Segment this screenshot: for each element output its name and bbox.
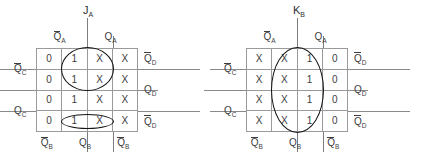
kmap-cell[interactable]: 0 — [37, 91, 62, 112]
kmap-cell[interactable]: X — [247, 49, 272, 70]
kmap-title: KB — [293, 4, 305, 18]
right-label-0: QD — [144, 54, 156, 67]
kmap-cell[interactable]: 0 — [37, 70, 62, 91]
kmap-cell[interactable]: 0 — [37, 49, 62, 70]
kmap-cell[interactable]: 0 — [323, 91, 348, 112]
left-label-0: QC — [224, 64, 236, 77]
bottom-label-1: QB — [79, 138, 91, 151]
kmap-cell[interactable]: 0 — [37, 111, 62, 132]
kmap-cell[interactable]: 0 — [323, 111, 348, 132]
bottom-label-1: QB — [289, 138, 301, 151]
right-label-1: QD — [144, 85, 156, 98]
kmap-left: JA01XX01XX01XX01XXQAQAQBQBQBQCQCQDQDQD — [0, 0, 211, 168]
kmap-cell[interactable]: X — [88, 70, 113, 91]
kmap-title: JA — [83, 4, 93, 18]
col-label-1: QA — [315, 32, 327, 45]
kmap-cell[interactable]: 1 — [62, 111, 87, 132]
kmap-cell[interactable]: 1 — [62, 91, 87, 112]
kmap-cell[interactable]: 1 — [298, 70, 323, 91]
kmap-cell[interactable]: X — [272, 111, 297, 132]
left-label-1: QC — [14, 106, 26, 119]
kmap-cell[interactable]: X — [113, 49, 138, 70]
kmap-cell[interactable]: X — [88, 49, 113, 70]
kmap-cell[interactable]: X — [247, 111, 272, 132]
kmap-cell[interactable]: X — [247, 70, 272, 91]
right-label-0: QD — [354, 54, 366, 67]
col-label-0: QA — [264, 32, 276, 45]
bottom-label-2: QB — [117, 138, 129, 151]
kmap-cell[interactable]: X — [247, 91, 272, 112]
bottom-label-0: QB — [41, 138, 53, 151]
kmap-cell[interactable]: 1 — [62, 70, 87, 91]
left-label-1: QC — [224, 106, 236, 119]
kmap-cell[interactable]: 1 — [298, 111, 323, 132]
kmap-cell[interactable]: 0 — [323, 70, 348, 91]
kmap-cell[interactable]: 1 — [62, 49, 87, 70]
col-label-1: QA — [105, 32, 117, 45]
bottom-label-2: QB — [327, 138, 339, 151]
right-label-2: QD — [144, 117, 156, 130]
right-label-2: QD — [354, 117, 366, 130]
kmap-cell[interactable]: X — [88, 91, 113, 112]
kmap-cell[interactable]: X — [272, 49, 297, 70]
kmap-cell[interactable]: X — [272, 70, 297, 91]
kmap-cell[interactable]: 1 — [298, 49, 323, 70]
kmap-cell[interactable]: X — [88, 111, 113, 132]
kmap-grid: 01XX01XX01XX01XX — [36, 48, 138, 132]
bottom-label-0: QB — [251, 138, 263, 151]
col-label-0: QA — [54, 32, 66, 45]
kmap-cell[interactable]: X — [113, 111, 138, 132]
kmap-cell[interactable]: 0 — [323, 49, 348, 70]
kmap-cell[interactable]: X — [113, 70, 138, 91]
left-label-0: QC — [14, 64, 26, 77]
kmap-right: KBXX10XX10XX10XX10QAQAQBQBQBQCQCQDQDQD — [210, 0, 421, 168]
kmap-cell[interactable]: X — [272, 91, 297, 112]
kmap-grid: XX10XX10XX10XX10 — [246, 48, 348, 132]
kmap-cell[interactable]: X — [113, 91, 138, 112]
right-label-1: QD — [354, 85, 366, 98]
karnaugh-map-pair: JA01XX01XX01XX01XXQAQAQBQBQBQCQCQDQDQDKB… — [0, 0, 421, 168]
kmap-cell[interactable]: 1 — [298, 91, 323, 112]
